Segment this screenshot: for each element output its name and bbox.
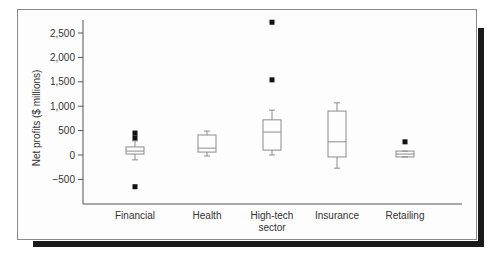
x-category-label: Financial xyxy=(115,210,155,221)
y-tick-label: 2,500 xyxy=(50,28,75,39)
outlier-point xyxy=(403,139,408,144)
y-tick-label: 2,000 xyxy=(50,52,75,63)
y-tick-label: 500 xyxy=(58,125,75,136)
y-axis: −50005001,0001,5002,0002,500 xyxy=(50,20,83,204)
x-category-label: Retailing xyxy=(386,210,425,221)
box-retailing xyxy=(396,139,414,157)
y-tick-label: 1,500 xyxy=(50,76,75,87)
x-category-label: High-tech xyxy=(251,210,294,221)
outlier-point xyxy=(133,131,138,136)
y-axis-label: Net profits ($ millions) xyxy=(31,70,42,167)
y-tick-label: 0 xyxy=(69,150,75,161)
iqr-box xyxy=(263,120,281,150)
iqr-box xyxy=(198,135,216,152)
y-tick-label: 1,000 xyxy=(50,101,75,112)
x-category-label: Health xyxy=(193,210,222,221)
x-category-label: sector xyxy=(258,222,286,233)
box-high-tech-sector xyxy=(263,20,281,155)
iqr-box xyxy=(126,147,144,154)
box-plot: −50005001,0001,5002,0002,500 FinancialHe… xyxy=(0,0,498,259)
x-category-label: Insurance xyxy=(315,210,359,221)
outlier-point xyxy=(270,77,275,82)
x-axis: FinancialHealthHigh-techsectorInsuranceR… xyxy=(83,204,462,233)
box-series xyxy=(126,20,414,189)
outlier-point xyxy=(133,135,138,140)
outlier-point xyxy=(270,20,275,25)
box-financial xyxy=(126,131,144,190)
box-health xyxy=(198,131,216,156)
iqr-box xyxy=(328,111,346,157)
outlier-point xyxy=(133,184,138,189)
y-tick-label: −500 xyxy=(52,174,75,185)
box-insurance xyxy=(328,103,346,168)
